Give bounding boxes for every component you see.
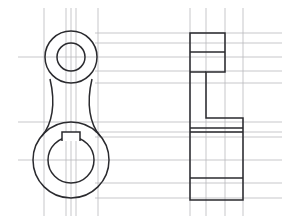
side-view <box>190 33 243 200</box>
keyway-mask <box>62 132 80 141</box>
side-view-outline <box>190 33 243 200</box>
drawing-canvas <box>0 0 294 224</box>
drawing-sheet <box>0 0 294 224</box>
vertical-construction-lines <box>44 8 243 216</box>
